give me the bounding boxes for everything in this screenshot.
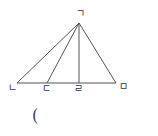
label-p1: ㄷ — [42, 84, 51, 94]
label-right: ㅁ — [119, 82, 128, 92]
label-left: ㄴ — [8, 83, 17, 93]
triangle-diagram — [0, 0, 158, 136]
label-apex: ㄱ — [76, 9, 85, 19]
answer-blank-paren: ( — [32, 108, 38, 124]
segment-apex-left — [17, 23, 79, 83]
segment-apex-p1 — [47, 23, 79, 83]
segment-apex-right — [79, 23, 116, 83]
label-foot: ㄹ — [74, 84, 83, 94]
